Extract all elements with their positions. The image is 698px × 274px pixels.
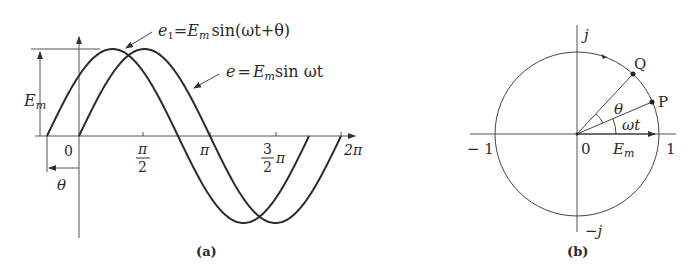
tick-label-half-pi-num: π [137,141,148,157]
figure-b-phasor: j −j − 1 1 0 Q P θ ωt Em (b) [467,25,676,259]
caption-a: (a) [196,244,217,259]
origin-label: 0 [581,140,591,158]
phasor-em-label: Em [612,140,634,160]
amplitude-label: Em [23,91,46,112]
point-p-marker [650,100,655,105]
axis-neg-j-label: −j [585,222,603,240]
curve-e-label: e=Emsin ωt [226,62,324,83]
axis-j-label: j [581,26,589,44]
tick-label-pi: π [199,142,210,158]
figure-a-sine-waves: e1=Emsin(ωt+θ) e=Emsin ωt Em 0 π 2 π 3 2… [23,21,363,259]
curve-e1-label: e1=Emsin(ωt+θ) [158,21,290,42]
origin-marker [576,133,579,136]
tick-label-three-half-num: 3 [263,141,272,157]
e-pointer-arrow [194,74,219,88]
point-q-label: Q [634,55,646,73]
axis-one-label: 1 [666,140,676,158]
rotation-direction-arrow [601,54,607,59]
phase-label: θ [57,176,66,194]
tick-label-three-half-pi: π [275,150,286,166]
e1-pointer-arrow [126,32,152,48]
tick-label-half-pi-den: 2 [138,159,147,175]
point-p-label: P [658,93,668,111]
caption-b: (b) [567,244,588,259]
angle-arc-wt [613,119,616,134]
tick-label-two-pi: 2π [343,142,363,158]
tick-label-zero: 0 [64,143,73,159]
axis-neg-one-label: − 1 [467,140,494,158]
angle-arc-theta [596,114,603,123]
tick-label-three-half-den: 2 [263,159,272,175]
figure-canvas: e1=Emsin(ωt+θ) e=Emsin ωt Em 0 π 2 π 3 2… [0,0,698,274]
angle-wt-label: ωt [622,116,641,134]
